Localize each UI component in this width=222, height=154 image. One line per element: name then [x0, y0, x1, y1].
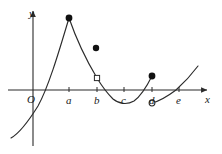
axes: [8, 11, 207, 146]
x-axis-label: x: [205, 94, 210, 105]
point-filled-at-d-upper: [149, 73, 156, 80]
curve-branch-peak-to-valley-to-d: [69, 18, 152, 103]
tick-label-d: d: [149, 95, 155, 106]
point-peak-at-a: [66, 15, 73, 22]
curve-branch-after-d: [152, 66, 198, 103]
y-axis-label: y: [29, 8, 34, 19]
tick-label-b: b: [94, 95, 100, 106]
figure-canvas: y x O a b c d e: [0, 0, 222, 154]
curve-branch-increasing-to-peak: [11, 18, 69, 138]
tick-label-c: c: [121, 95, 126, 106]
point-isolated-between-a-and-b: [93, 45, 99, 51]
origin-label: O: [27, 94, 35, 105]
point-open-square-at-b: [94, 75, 99, 80]
function-graph: [0, 0, 222, 154]
tick-label-a: a: [66, 95, 72, 106]
tick-label-e: e: [176, 95, 181, 106]
